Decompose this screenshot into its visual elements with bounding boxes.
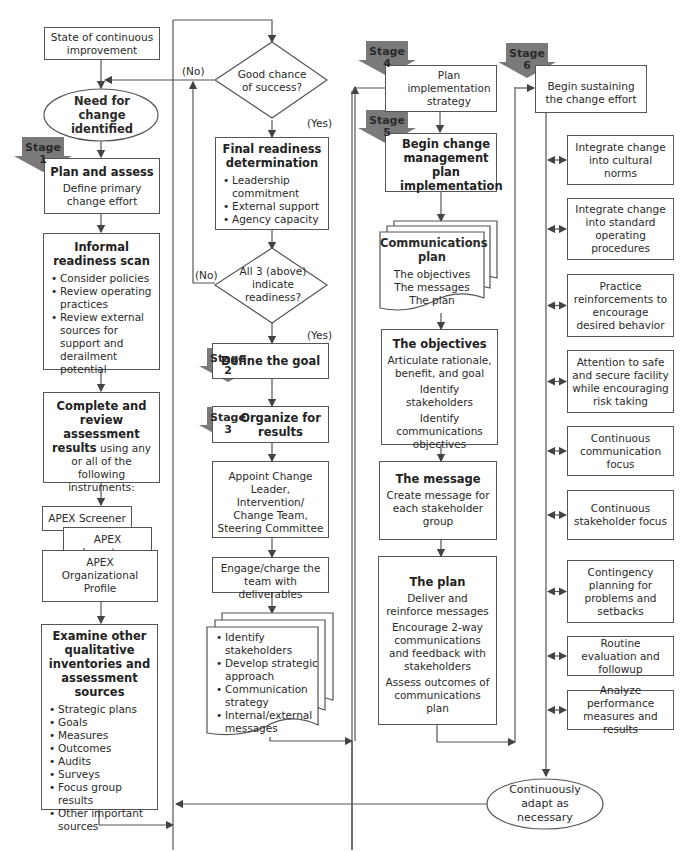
connector xyxy=(270,737,352,741)
apex-profile-box: APEX Organizational Profile xyxy=(42,550,158,602)
begin-sustaining-box: Begin sustaining the change effort xyxy=(535,65,647,113)
box-text: Plan implementation strategy xyxy=(407,69,490,107)
box-text: Routine evaluation and followup xyxy=(572,637,669,676)
list-item: Communication strategy xyxy=(225,683,319,709)
list-item: Measures xyxy=(58,729,153,742)
stage-number: 6 xyxy=(523,59,531,72)
good-chance-text: Good chance of success? xyxy=(236,68,308,94)
box-line: Identify communications objectives xyxy=(386,412,493,451)
deliverables-doc: Identify stakeholders Develop strategic … xyxy=(207,627,319,727)
sustain-item-box: Practice reinforcements to encourage des… xyxy=(567,274,674,337)
box-title: The plan xyxy=(383,575,492,589)
box-title: Final readiness determination xyxy=(220,142,324,170)
list-item: External support xyxy=(232,200,324,213)
doc-title: Communications plan xyxy=(380,236,484,264)
list-item: Consider policies xyxy=(60,272,155,285)
stage-2-label: Stage2 xyxy=(207,349,249,393)
list-item: Audits xyxy=(58,755,153,768)
connector xyxy=(437,725,515,742)
need-for-change-text: Need for change identified xyxy=(52,92,152,138)
box-line: Create message for each stakeholder grou… xyxy=(384,489,492,528)
box-text: Continuous communication focus xyxy=(572,432,669,471)
box-title: Examine other qualitative inventories an… xyxy=(46,629,153,699)
list-item: Develop strategic approach xyxy=(225,657,319,683)
objectives-box: The objectives Articulate rationale, ben… xyxy=(381,329,498,445)
box-title: The objectives xyxy=(386,337,493,351)
list-item: Agency capacity xyxy=(232,213,324,226)
sustain-item-box: Continuous communication focus xyxy=(567,426,674,476)
no-label-2: (No) xyxy=(195,269,217,281)
sustain-item-box: Contingency planning for problems and se… xyxy=(567,560,674,623)
box-text: State of continuous improvement xyxy=(51,31,153,56)
list-item: Review operating practices xyxy=(60,285,155,311)
box-text: Continuous stakeholder focus xyxy=(572,502,669,528)
stage-number: 1 xyxy=(39,153,47,166)
box-text: APEX Screener xyxy=(48,512,126,524)
doc-line: The messages xyxy=(380,281,484,294)
box-text: Contingency planning for problems and se… xyxy=(572,566,669,618)
informal-readiness-scan-box: Informal readiness scan Consider policie… xyxy=(43,233,160,370)
box-line: Identify stakeholders xyxy=(386,383,493,409)
box-title: The message xyxy=(384,472,492,486)
box-line: Assess outcomes of communications plan xyxy=(383,676,492,715)
sustain-item-box: Routine evaluation and followup xyxy=(567,636,674,676)
engage-box: Engage/charge the team with deliverables xyxy=(212,557,329,593)
sustain-item-box: Attention to safe and secure facility wh… xyxy=(567,350,674,413)
box-text: Integrate change into cultural norms xyxy=(572,141,669,180)
list-item: Strategic plans xyxy=(58,703,153,716)
sustain-item-box: Integrate change into cultural norms xyxy=(567,135,674,185)
yes-label-1: (Yes) xyxy=(307,117,332,129)
sustain-item-box: Integrate change into standard operating… xyxy=(567,198,674,260)
stage-number: 2 xyxy=(224,364,232,377)
communications-plan-doc: Communications plan The objectives The m… xyxy=(380,232,484,312)
stage-4-label: Stage4 xyxy=(366,42,408,86)
stage-3-label: Stage3 xyxy=(207,408,249,452)
sustain-item-box: Continuous stakeholder focus xyxy=(567,490,674,540)
state-continuous-improvement-box: State of continuous improvement xyxy=(44,27,160,60)
stage-number: 3 xyxy=(224,423,232,436)
connector xyxy=(173,20,272,42)
ellipse-text: Need for change identified xyxy=(52,94,152,136)
box-text: Attention to safe and secure facility wh… xyxy=(572,356,669,408)
list-item: Other important sources xyxy=(58,807,153,833)
box-text: Appoint Change Leader, Intervention/ Cha… xyxy=(218,470,324,534)
list-item: Surveys xyxy=(58,768,153,781)
yes-label-2: (Yes) xyxy=(307,329,332,341)
box-title: Informal readiness scan xyxy=(48,240,155,268)
deliverables-list: Identify stakeholders Develop strategic … xyxy=(213,631,319,735)
box-line: Deliver and reinforce messages xyxy=(383,592,492,618)
stage-5-label: Stage5 xyxy=(366,111,408,155)
box-text: Analyze performance measures and results xyxy=(572,684,669,736)
stage-6-label: Stage6 xyxy=(506,44,548,88)
doc-line: The plan xyxy=(380,294,484,307)
list-item: Internal/external messages xyxy=(225,709,319,735)
box-text: APEX Organizational Profile xyxy=(62,556,138,594)
ellipse-text: Continuously adapt as necessary xyxy=(492,783,598,825)
list-item: Outcomes xyxy=(58,742,153,755)
box-title: Begin change management plan implementat… xyxy=(400,137,492,193)
list-item: Identify stakeholders xyxy=(225,631,319,657)
stage-number: 4 xyxy=(383,57,391,70)
sustain-item-box: Analyze performance measures and results xyxy=(567,690,674,730)
stage-number: 5 xyxy=(383,126,391,139)
list-item: Leadership commitment xyxy=(232,174,324,200)
box-text: Begin sustaining the change effort xyxy=(545,80,636,105)
box-text: Practice reinforcements to encourage des… xyxy=(572,280,669,332)
box-title: Plan and assess xyxy=(49,165,155,179)
box-line: Encourage 2-way communications and feedb… xyxy=(383,621,492,673)
informal-scan-list: Consider policies Review operating pract… xyxy=(48,272,155,376)
final-readiness-box: Final readiness determination Leadership… xyxy=(215,137,329,230)
no-label-1: (No) xyxy=(182,65,204,77)
complete-review-box: Complete and review assessment results u… xyxy=(43,392,160,483)
stage-1-label: Stage1 xyxy=(22,138,64,182)
message-box: The message Create message for each stak… xyxy=(379,461,497,540)
apex-inventory-box: APEX Inventory xyxy=(63,527,152,552)
doc-line: The objectives xyxy=(380,268,484,281)
box-line: Articulate rationale, benefit, and goal xyxy=(386,354,493,380)
list-item: Focus group results xyxy=(58,781,153,807)
appoint-box: Appoint Change Leader, Intervention/ Cha… xyxy=(212,461,329,538)
list-item: Review external sources for support and … xyxy=(60,311,155,376)
plan-box: The plan Deliver and reinforce messages … xyxy=(378,556,497,725)
list-item: Goals xyxy=(58,716,153,729)
box-body: Define primary change effort xyxy=(49,182,155,208)
